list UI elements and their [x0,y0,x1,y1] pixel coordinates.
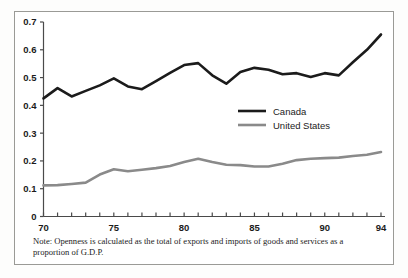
legend-label-canada: Canada [273,106,307,117]
y-axis: 00.10.20.30.40.50.60.7 [23,16,43,222]
x-axis: 707580859094 [38,213,387,233]
x-axis-tick-label: 75 [109,222,120,233]
chart-legend: CanadaUnited States [238,106,330,131]
x-axis-tick-label: 90 [319,222,330,233]
series-line-united-states [44,152,382,185]
y-axis-tick-label: 0 [31,211,36,222]
series-line-canada [44,35,382,99]
y-axis-tick-label: 0.5 [23,72,37,83]
y-axis-tick-label: 0.3 [23,128,36,139]
x-axis-tick-label: 85 [249,222,260,233]
y-axis-tick-label: 0.2 [23,155,36,166]
y-axis-tick-label: 0.7 [23,16,36,27]
openness-chart-figure: 00.10.20.30.40.50.60.7 707580859094 Cana… [0,0,408,278]
y-axis-tick-label: 0.1 [23,183,37,194]
data-series-group [44,35,382,186]
chart-note: Note: Openness is calculated as the tota… [33,236,363,259]
x-axis-tick-label: 94 [376,222,387,233]
x-axis-tick-label: 80 [179,222,190,233]
y-axis-tick-label: 0.6 [23,44,36,55]
y-axis-tick-label: 0.4 [23,100,37,111]
x-axis-tick-label: 70 [38,222,49,233]
legend-label-united-states: United States [273,120,330,131]
